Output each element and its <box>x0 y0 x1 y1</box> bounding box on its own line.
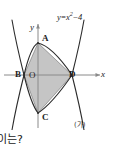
geometry-figure: y=x2−4 y x A B C D O (가) 이는? <box>0 0 114 152</box>
point-label-B: B <box>15 70 21 79</box>
curve-equation-base: y=x <box>57 12 70 22</box>
y-axis-arrowhead <box>36 24 40 29</box>
point-dot-B <box>23 74 25 76</box>
x-axis-label: x <box>101 70 105 79</box>
point-label-C: C <box>42 113 49 122</box>
caption-strip: 이는? <box>0 130 114 152</box>
point-label-D: D <box>69 70 76 79</box>
origin-label: O <box>29 71 36 80</box>
point-dot-A <box>37 42 39 44</box>
curve-equation-tail: −4 <box>73 12 83 22</box>
point-dot-C <box>37 112 39 114</box>
caption-text: 이는? <box>0 134 23 145</box>
y-axis-label: y <box>30 23 34 32</box>
point-label-A: A <box>42 34 49 43</box>
curve-equation-label: y=x2−4 <box>57 13 82 22</box>
region-tag-label: (가) <box>74 122 85 129</box>
x-axis-arrowhead <box>96 73 101 77</box>
